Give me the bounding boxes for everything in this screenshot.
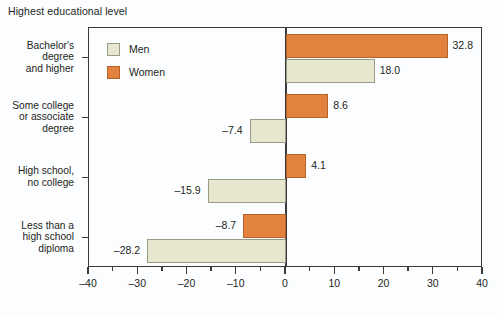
x-axis-minor-tick [161,267,162,271]
x-axis-minor-tick [457,267,458,271]
legend-item-men: Men [107,42,165,56]
x-axis-label: 0 [282,277,288,289]
bar-women [286,94,328,118]
x-axis-tick [284,267,285,274]
x-axis-tick [432,267,433,274]
x-axis-minor-tick [210,267,211,271]
bar-men [250,119,286,143]
x-axis-label: –40 [79,277,97,289]
plot-area: 32.818.08.6–7.44.1–15.9–8.7–28.2 Men Wom… [88,27,482,267]
x-axis-label: 30 [427,277,439,289]
x-axis-tick [481,267,482,274]
x-axis-minor-tick [260,267,261,271]
x-axis-tick [383,267,384,274]
x-axis-minor-tick [309,267,310,271]
y-axis-category-labels: Bachelor'sdegreeand higherSome collegeor… [0,27,84,267]
bar-men [208,179,286,203]
bar-women [286,34,448,58]
bar-value-label: 32.8 [453,40,473,51]
bar-value-label: 8.6 [333,100,348,111]
legend-swatch-men-icon [107,43,120,56]
bar-value-label: –28.2 [114,245,140,256]
x-axis-tick [137,267,138,274]
x-axis-label: 20 [378,277,390,289]
x-axis-minor-tick [112,267,113,271]
x-axis-label: 10 [328,277,340,289]
bar-men [147,239,286,263]
y-axis-label: Bachelor'sdegreeand higher [0,40,74,75]
x-axis-tick [235,267,236,274]
x-axis-tick [186,267,187,274]
x-axis-label: 40 [476,277,488,289]
legend-swatch-women-icon [107,66,120,79]
bar-value-label: 18.0 [380,65,400,76]
bar-value-label: –8.7 [216,220,236,231]
legend-label-women: Women [129,66,165,78]
bar-women [243,214,286,238]
x-axis-tick [87,267,88,274]
bar-value-label: –7.4 [222,125,242,136]
x-axis-tick [334,267,335,274]
x-axis-label: –20 [178,277,196,289]
y-axis-label: Less than ahigh schooldiploma [0,220,74,255]
x-axis-minor-tick [407,267,408,271]
x-axis-minor-tick [358,267,359,271]
legend: Men Women [107,42,165,88]
x-axis: –40–30–20–10010203040 [88,267,482,317]
bar-value-label: –15.9 [174,185,200,196]
chart-title: Highest educational level [8,5,127,17]
y-axis-label: High school,no college [0,165,74,188]
bar-value-label: 4.1 [311,160,326,171]
x-axis-label: –30 [128,277,146,289]
y-axis-label: Some collegeor associatedegree [0,100,74,135]
x-axis-label: –10 [227,277,245,289]
bar-women [286,154,306,178]
legend-label-men: Men [129,43,149,55]
bar-men [286,59,375,83]
legend-item-women: Women [107,65,165,79]
